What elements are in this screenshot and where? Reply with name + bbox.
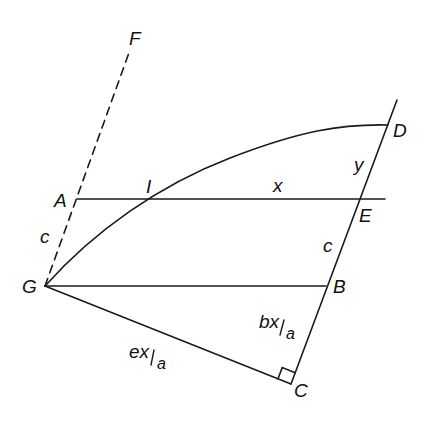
label-segment-y: y	[352, 154, 365, 175]
label-segment-x: x	[272, 175, 284, 196]
label-segment-ex: ex	[129, 341, 151, 362]
label-segment-gc-denominator: a	[157, 355, 166, 372]
label-point-d: D	[393, 120, 407, 141]
label-segment-c-ga: c	[40, 226, 50, 247]
label-point-b: B	[333, 276, 346, 297]
line-g-c	[45, 286, 291, 384]
right-angle-marker	[278, 368, 295, 379]
line-c-d	[291, 100, 397, 384]
label-point-g: G	[22, 276, 37, 297]
label-point-e: E	[359, 205, 372, 226]
geometry-diagram: F A I D E G B C x y c c bx a ex a	[0, 0, 433, 426]
label-point-f: F	[129, 28, 142, 49]
label-segment-c-eb: c	[323, 235, 333, 256]
label-segment-bx: bx	[259, 311, 281, 332]
label-point-a: A	[53, 190, 67, 211]
label-point-c: C	[294, 380, 308, 401]
fraction-slash-bc	[280, 320, 284, 335]
label-segment-bc-denominator: a	[286, 325, 295, 342]
dashed-line-gf	[45, 50, 130, 286]
fraction-slash-gc	[151, 350, 154, 365]
label-point-i: I	[146, 176, 152, 197]
